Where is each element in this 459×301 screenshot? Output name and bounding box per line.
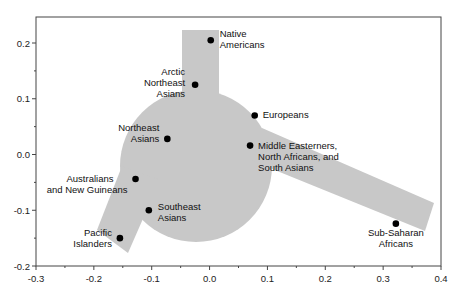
point-marker [251, 112, 258, 119]
point-label: Northeast [118, 122, 160, 133]
point-label: Middle Easterners, [258, 140, 337, 151]
point-label: South Asians [258, 162, 314, 173]
point-marker [117, 235, 124, 242]
point-label: Southeast [158, 201, 201, 212]
point-label: Native [220, 28, 247, 39]
point-label: Europeans [263, 109, 309, 120]
x-axis: -0.3-0.2-0.10.00.10.20.30.4 [28, 266, 448, 284]
scatter-chart: 0.20.10.0-0.1-0.2 -0.3-0.2-0.10.00.10.20… [0, 0, 459, 301]
point-label: Asians [158, 212, 187, 223]
point-label: Sub-Saharan [368, 227, 424, 238]
x-tick-label: 0.2 [319, 273, 332, 284]
point-label: North Africans, and [258, 151, 339, 162]
point-marker [247, 142, 254, 149]
y-axis: 0.20.10.0-0.1-0.2 [14, 38, 36, 272]
point-marker [192, 82, 199, 89]
point-label: Islanders [73, 238, 112, 249]
point-label: and New Guineans [47, 184, 128, 195]
point-marker [207, 37, 214, 44]
point-label: Americans [220, 39, 265, 50]
x-tick-label: -0.3 [28, 273, 44, 284]
point-label: Australians [67, 173, 114, 184]
y-tick-label: 0.1 [17, 93, 30, 104]
x-tick-label: 0.3 [377, 273, 390, 284]
point-label: Northeast [144, 77, 186, 88]
x-tick-label: 0.4 [434, 273, 447, 284]
y-tick-label: -0.1 [14, 205, 30, 216]
y-tick-label: -0.2 [14, 261, 30, 272]
x-tick-label: 0.0 [203, 273, 216, 284]
x-tick-label: -0.1 [144, 273, 160, 284]
point-label: Pacific [84, 227, 112, 238]
x-tick-label: 0.1 [261, 273, 274, 284]
data-point: Europeans [251, 109, 309, 120]
point-label: Asians [131, 133, 160, 144]
point-marker [164, 136, 171, 143]
y-tick-label: 0.2 [17, 38, 30, 49]
point-marker [132, 176, 139, 183]
x-tick-label: -0.2 [86, 273, 102, 284]
point-label: Africans [379, 238, 414, 249]
point-label: Arctic [161, 66, 185, 77]
point-label: Asians [157, 88, 186, 99]
point-marker [146, 207, 153, 214]
y-tick-label: 0.0 [17, 149, 30, 160]
